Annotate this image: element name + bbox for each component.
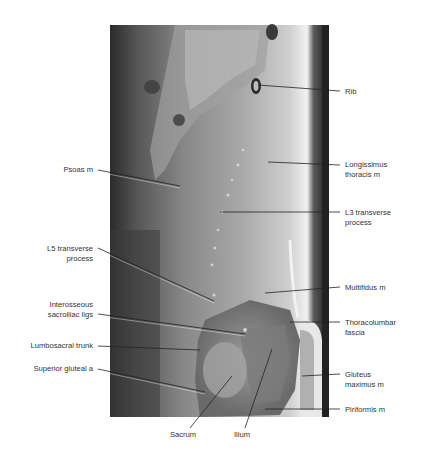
label-interosseous-sacroiliac-ligs: Interosseous sacroiliac ligs (48, 300, 93, 320)
label-l5-transverse-process: L5 transverse process (47, 244, 93, 264)
label-rib: Rib (345, 87, 356, 97)
label-lumbosacral-trunk: Lumbosacral trunk (31, 341, 93, 351)
label-thoracolumbar-fascia: Thoracolumbar fascia (345, 318, 396, 338)
mri-image (0, 0, 422, 459)
label-ilium: Ilium (234, 430, 250, 440)
label-longissimus-thoracis: Longissimus thoracis m (345, 160, 387, 180)
label-superior-gluteal-artery: Superior gluteal a (33, 364, 93, 374)
label-l3-transverse-process: L3 transverse process (345, 208, 391, 228)
label-sacrum: Sacrum (170, 430, 196, 440)
anatomy-figure: Rib Longissimus thoracis m L3 transverse… (0, 0, 422, 459)
label-gluteus-maximus: Gluteus maximus m (345, 370, 384, 390)
label-multifidus: Multifidus m (345, 283, 386, 293)
label-piriformis: Piriformis m (345, 405, 385, 415)
label-psoas: Psoas m (63, 165, 93, 175)
